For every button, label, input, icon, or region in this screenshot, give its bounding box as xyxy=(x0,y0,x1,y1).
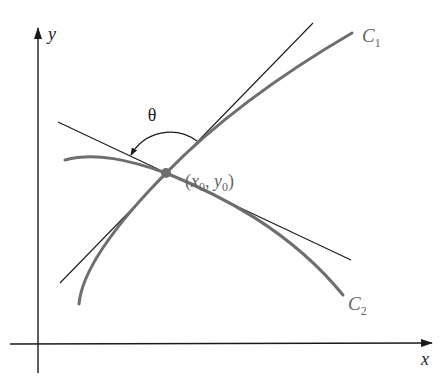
x-axis xyxy=(10,343,432,344)
curve-c1-label: C1 xyxy=(362,25,381,50)
curve-c2-label: C2 xyxy=(348,293,367,318)
y-axis-label: y xyxy=(46,24,56,44)
angle-theta: θ xyxy=(131,105,197,155)
curve-c2 xyxy=(65,157,343,295)
angle-theta-label: θ xyxy=(148,105,157,125)
intersection-label: (x0, y0) xyxy=(185,171,234,194)
curve-c1 xyxy=(79,33,352,304)
curves xyxy=(65,33,352,304)
x-axis-label: x xyxy=(420,349,429,369)
intersection-point xyxy=(161,168,171,178)
diagram-canvas: y x θ (x0, y0) C1 C2 xyxy=(0,0,440,384)
